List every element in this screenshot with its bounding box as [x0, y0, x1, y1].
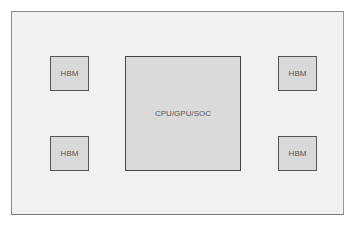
hbm-bottom-right: HBM	[278, 136, 317, 171]
processor-label: CPU/GPU/SOC	[155, 109, 211, 118]
hbm-label: HBM	[61, 149, 79, 158]
hbm-top-left: HBM	[50, 56, 89, 91]
hbm-label: HBM	[61, 69, 79, 78]
processor-die: CPU/GPU/SOC	[125, 56, 241, 171]
hbm-label: HBM	[289, 69, 307, 78]
hbm-bottom-left: HBM	[50, 136, 89, 171]
hbm-label: HBM	[289, 149, 307, 158]
hbm-top-right: HBM	[278, 56, 317, 91]
